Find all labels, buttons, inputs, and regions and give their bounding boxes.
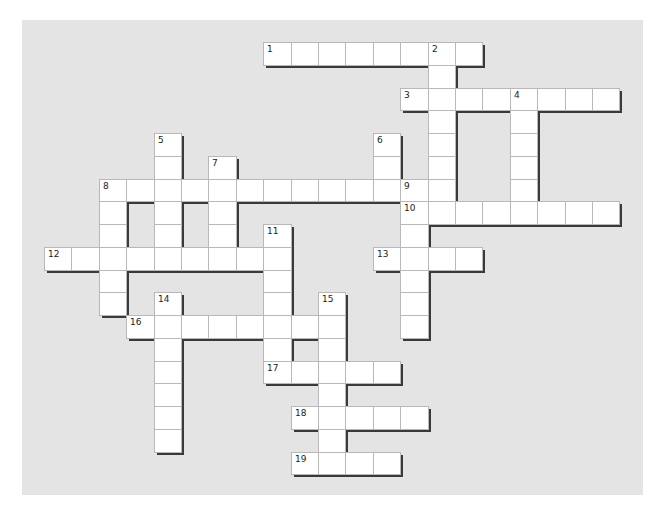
crossword-cell[interactable] (482, 201, 511, 225)
crossword-cell[interactable] (373, 179, 401, 202)
crossword-cell[interactable] (428, 201, 456, 225)
crossword-cell[interactable] (318, 452, 346, 475)
crossword-cell[interactable]: 2 (428, 42, 456, 66)
crossword-cell[interactable] (291, 315, 319, 339)
crossword-cell[interactable] (208, 179, 237, 202)
crossword-cell[interactable]: 9 (400, 179, 429, 202)
crossword-cell[interactable] (400, 224, 429, 248)
crossword-cell[interactable] (154, 383, 182, 407)
crossword-cell[interactable] (345, 406, 374, 430)
crossword-cell[interactable] (400, 292, 429, 316)
crossword-cell[interactable] (373, 361, 401, 384)
crossword-cell[interactable] (181, 179, 209, 202)
crossword-cell[interactable]: 18 (291, 406, 319, 430)
crossword-cell[interactable] (428, 133, 456, 157)
crossword-cell[interactable] (263, 292, 292, 316)
crossword-cell[interactable] (291, 42, 319, 66)
crossword-cell[interactable] (510, 133, 538, 157)
crossword-cell[interactable] (565, 201, 593, 225)
crossword-cell[interactable] (99, 224, 127, 248)
crossword-cell[interactable] (428, 179, 456, 202)
crossword-cell[interactable] (154, 406, 182, 430)
crossword-cell[interactable] (236, 247, 264, 271)
crossword-cell[interactable] (126, 247, 155, 271)
crossword-cell[interactable] (154, 247, 182, 271)
crossword-cell[interactable] (428, 88, 456, 111)
crossword-cell[interactable] (455, 88, 483, 111)
crossword-cell[interactable] (510, 201, 538, 225)
crossword-cell[interactable] (236, 315, 264, 339)
crossword-cell[interactable] (400, 247, 429, 271)
crossword-cell[interactable] (537, 88, 566, 111)
crossword-cell[interactable] (71, 247, 100, 271)
crossword-cell[interactable]: 11 (263, 224, 292, 248)
crossword-cell[interactable] (263, 247, 292, 271)
crossword-cell[interactable] (181, 315, 209, 339)
crossword-cell[interactable] (208, 315, 237, 339)
crossword-cell[interactable] (318, 338, 346, 362)
crossword-cell[interactable] (318, 315, 346, 339)
crossword-cell[interactable] (154, 361, 182, 384)
crossword-cell[interactable] (154, 315, 182, 339)
crossword-cell[interactable]: 6 (373, 133, 401, 157)
crossword-cell[interactable] (537, 201, 566, 225)
crossword-cell[interactable]: 1 (263, 42, 292, 66)
crossword-cell[interactable] (345, 179, 374, 202)
crossword-cell[interactable] (592, 201, 620, 225)
crossword-cell[interactable] (345, 42, 374, 66)
crossword-cell[interactable] (154, 156, 182, 180)
crossword-cell[interactable] (345, 452, 374, 475)
crossword-cell[interactable]: 3 (400, 88, 429, 111)
crossword-cell[interactable] (154, 179, 182, 202)
crossword-cell[interactable] (373, 452, 401, 475)
crossword-cell[interactable] (510, 110, 538, 134)
crossword-cell[interactable] (318, 406, 346, 430)
crossword-cell[interactable] (318, 383, 346, 407)
crossword-cell[interactable]: 16 (126, 315, 155, 339)
crossword-cell[interactable] (373, 406, 401, 430)
crossword-cell[interactable] (373, 156, 401, 180)
crossword-cell[interactable] (400, 406, 429, 430)
crossword-cell[interactable] (428, 156, 456, 180)
crossword-cell[interactable] (428, 247, 456, 271)
crossword-cell[interactable] (373, 42, 401, 66)
crossword-cell[interactable]: 17 (263, 361, 292, 384)
crossword-cell[interactable]: 7 (208, 156, 237, 180)
crossword-cell[interactable] (428, 65, 456, 89)
crossword-cell[interactable] (318, 429, 346, 453)
crossword-cell[interactable]: 19 (291, 452, 319, 475)
crossword-cell[interactable] (154, 224, 182, 248)
crossword-cell[interactable] (236, 179, 264, 202)
crossword-cell[interactable] (428, 110, 456, 134)
crossword-cell[interactable] (345, 361, 374, 384)
crossword-cell[interactable] (208, 224, 237, 248)
crossword-cell[interactable] (263, 338, 292, 362)
crossword-cell[interactable] (510, 179, 538, 202)
crossword-cell[interactable] (400, 315, 429, 339)
crossword-cell[interactable] (400, 42, 429, 66)
crossword-cell[interactable] (263, 270, 292, 293)
crossword-cell[interactable] (455, 247, 483, 271)
crossword-cell[interactable]: 15 (318, 292, 346, 316)
crossword-cell[interactable] (482, 88, 511, 111)
crossword-cell[interactable] (455, 201, 483, 225)
crossword-cell[interactable]: 8 (99, 179, 127, 202)
crossword-cell[interactable] (400, 270, 429, 293)
crossword-cell[interactable] (318, 179, 346, 202)
crossword-cell[interactable]: 13 (373, 247, 401, 271)
crossword-cell[interactable]: 10 (400, 201, 429, 225)
crossword-cell[interactable]: 14 (154, 292, 182, 316)
crossword-cell[interactable]: 4 (510, 88, 538, 111)
crossword-cell[interactable] (291, 179, 319, 202)
crossword-cell[interactable] (154, 201, 182, 225)
crossword-cell[interactable] (154, 338, 182, 362)
crossword-cell[interactable] (208, 247, 237, 271)
crossword-cell[interactable] (99, 201, 127, 225)
crossword-cell[interactable] (99, 292, 127, 316)
crossword-cell[interactable] (181, 247, 209, 271)
crossword-cell[interactable] (263, 315, 292, 339)
crossword-cell[interactable] (99, 247, 127, 271)
crossword-cell[interactable] (318, 42, 346, 66)
crossword-cell[interactable]: 12 (44, 247, 72, 271)
crossword-cell[interactable] (263, 179, 292, 202)
